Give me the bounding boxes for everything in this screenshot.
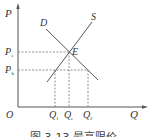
equilibrium-label: E (71, 46, 78, 57)
pe-sub: e (12, 53, 15, 58)
y-axis-arrow-icon (16, 3, 19, 9)
origin-label: O (6, 109, 13, 120)
x-axis-label: Q (130, 108, 138, 120)
supply-label: S (91, 11, 96, 22)
pe-label: P (4, 46, 11, 57)
q1-sub: 1 (56, 116, 59, 121)
ph-label: P (4, 64, 11, 75)
x-axis-arrow-icon (142, 105, 148, 108)
demand-label: D (39, 17, 48, 28)
figure-caption: 图 3-13 最高限价 (30, 130, 117, 137)
qe-sub: e (71, 116, 74, 121)
ph-sub: h (12, 71, 15, 76)
q2-sub: 2 (90, 116, 93, 121)
y-axis-label: P (4, 7, 12, 19)
supply-demand-diagram: P Q O D S E P e P h Q 1 Q e Q 2 图 3-13 最… (0, 0, 151, 137)
